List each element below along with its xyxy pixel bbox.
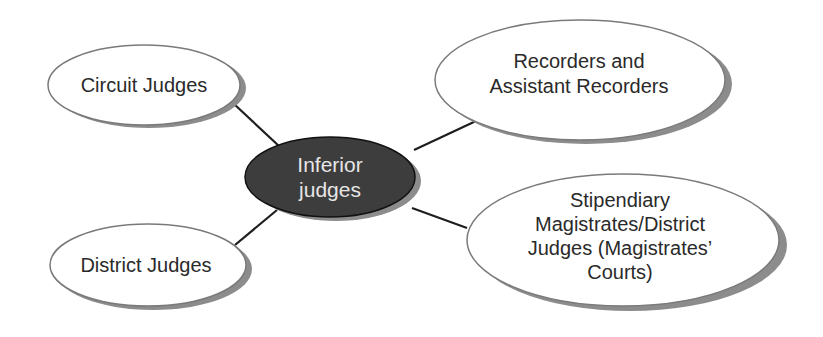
- diagram-canvas: Circuit Judges Recorders and Assistant R…: [0, 0, 823, 337]
- node-label-line-3: Judges (Magistrates’: [528, 237, 713, 259]
- mind-map: Circuit Judges Recorders and Assistant R…: [0, 0, 823, 337]
- node-inferior-judges: Inferior judges: [245, 137, 421, 221]
- connector-circuit-judges: [234, 104, 280, 147]
- node-label-line-1: Recorders and: [513, 50, 644, 72]
- connector-stipendiary: [412, 208, 467, 228]
- connector-district-judges: [235, 210, 277, 245]
- node-stipendiary-magistrates: Stipendiary Magistrates/District Judges …: [467, 174, 787, 311]
- center-label-line-1: Inferior: [297, 153, 362, 176]
- node-label: Circuit Judges: [81, 74, 208, 96]
- node-circuit-judges: Circuit Judges: [48, 45, 246, 128]
- center-ellipse: [245, 137, 415, 217]
- node-label-line-2: Magistrates/District: [535, 213, 705, 235]
- node-district-judges: District Judges: [50, 224, 252, 310]
- node-label: District Judges: [80, 254, 211, 276]
- node-label-line-2: Assistant Recorders: [490, 75, 669, 97]
- node-label-line-1: Stipendiary: [570, 189, 670, 211]
- node-label-line-4: Courts): [587, 261, 653, 283]
- node-recorders: Recorders and Assistant Recorders: [435, 20, 732, 144]
- connector-recorders: [414, 121, 476, 150]
- center-label-line-2: judges: [298, 178, 361, 201]
